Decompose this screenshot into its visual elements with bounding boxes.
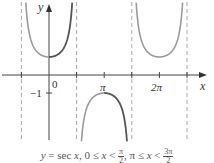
- caption-cond1-right: <: [106, 149, 118, 161]
- caption-cond1-left: , 0 ≤: [79, 149, 102, 161]
- sec-curve-segment: [136, 3, 182, 57]
- y-axis-label: y: [37, 0, 44, 14]
- x-tick-label-2pi: 2π: [151, 81, 163, 93]
- sec-curve-segment: [104, 93, 127, 141]
- axes: [2, 4, 207, 140]
- caption-frac-3pi-over-2: 3π2: [163, 148, 173, 163]
- y-tick-label-neg1: −1: [30, 87, 42, 99]
- sec-chart: y x 0 π 2π −1: [0, 0, 214, 163]
- figure-caption: y = sec x, 0 ≤ x < π2, π ≤ x < 3π2: [0, 148, 214, 163]
- caption-eq: = sec: [46, 149, 75, 161]
- sec-curve-segment: [49, 3, 72, 57]
- y-axis-arrow-icon: [46, 4, 52, 12]
- x-tick-label-pi: π: [100, 81, 106, 93]
- caption-cond2-right: <: [152, 149, 164, 161]
- x-axis-label: x: [199, 79, 206, 93]
- origin-label: 0: [52, 78, 58, 90]
- x-axis-arrow-icon: [199, 72, 207, 78]
- sec-curve-segment: [81, 93, 104, 141]
- caption-cond2-left: , π ≤: [124, 149, 147, 161]
